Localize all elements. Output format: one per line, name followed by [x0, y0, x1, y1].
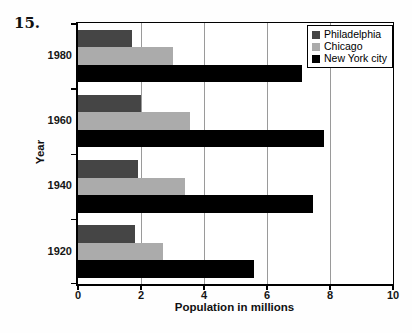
y-tick-label-1940: 1940: [30, 179, 72, 192]
x-tick-label-10: 10: [382, 289, 404, 301]
y-tick-label-1920: 1920: [30, 245, 72, 258]
y-axis-tick: [71, 88, 76, 90]
x-tick-label-0: 0: [67, 289, 89, 301]
y-tick-label-1980: 1980: [30, 49, 72, 62]
bar-chicago-1980: [78, 47, 173, 65]
x-tick-label-6: 6: [256, 289, 278, 301]
problem-number: 15.: [14, 14, 40, 32]
worksheet-page: 15. 19801960194019200246810 Year Populat…: [0, 0, 412, 333]
bar-new-york-city-1920: [78, 260, 254, 278]
bar-philadelphia-1980: [78, 30, 132, 48]
x-tick-label-8: 8: [319, 289, 341, 301]
legend-label: New York city: [324, 53, 387, 64]
bar-philadelphia-1960: [78, 95, 141, 113]
y-axis-tick: [71, 23, 76, 25]
gridline-6: [267, 23, 268, 284]
legend-label: Philadelphia: [324, 29, 381, 40]
y-tick-label-1960: 1960: [30, 114, 72, 127]
y-axis-tick: [71, 154, 76, 156]
legend-swatch: [312, 31, 320, 39]
gridline-4: [204, 23, 205, 284]
y-axis-tick: [71, 283, 76, 285]
y-axis-title: Year: [34, 140, 46, 164]
legend-swatch: [312, 55, 320, 63]
bar-new-york-city-1980: [78, 65, 302, 83]
bar-new-york-city-1940: [78, 195, 313, 213]
bar-chicago-1920: [78, 243, 163, 261]
y-axis-tick: [71, 219, 76, 221]
x-tick-label-2: 2: [130, 289, 152, 301]
x-axis-title: Population in millions: [76, 301, 393, 313]
bar-chicago-1960: [78, 112, 190, 130]
legend-item-philadelphia: Philadelphia: [312, 29, 387, 40]
bar-philadelphia-1940: [78, 160, 138, 178]
legend-label: Chicago: [324, 41, 363, 52]
legend: PhiladelphiaChicagoNew York city: [307, 25, 393, 68]
x-tick-label-4: 4: [193, 289, 215, 301]
legend-item-chicago: Chicago: [312, 41, 387, 52]
bar-chicago-1940: [78, 178, 185, 196]
legend-item-new-york-city: New York city: [312, 53, 387, 64]
bar-philadelphia-1920: [78, 225, 135, 243]
legend-swatch: [312, 43, 320, 51]
bar-new-york-city-1960: [78, 130, 324, 148]
